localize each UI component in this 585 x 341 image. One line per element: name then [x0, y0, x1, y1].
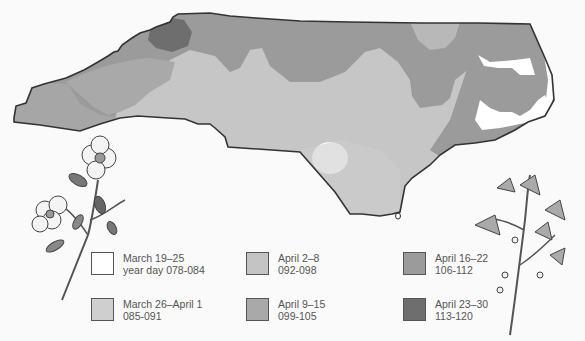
legend-swatch: [91, 298, 114, 321]
legend-swatch: [403, 252, 426, 275]
north-carolina-bloom-map: [0, 0, 585, 341]
legend-days: 113-120: [435, 310, 488, 322]
legend-swatch: [403, 298, 426, 321]
legend-dates: April 2–8: [278, 252, 319, 264]
legend-item-apr16-22: April 16–22 106-112: [403, 252, 488, 276]
legend-item-apr23-30: April 23–30 113-120: [403, 298, 488, 322]
legend-swatch: [91, 252, 114, 275]
legend-dates: March 19–25: [123, 252, 205, 264]
legend-swatch: [246, 298, 269, 321]
legend-dates: April 23–30: [435, 298, 488, 310]
legend-days: 106-112: [435, 264, 488, 276]
legend-item-apr9-15: April 9–15 099-105: [246, 298, 325, 322]
legend-item-mar19-25: March 19–25 year day 078-084: [91, 252, 205, 276]
legend-item-mar26-apr1: March 26–April 1 085-091: [91, 298, 202, 322]
legend-days: year day 078-084: [123, 264, 205, 276]
legend-days: 085-091: [123, 310, 202, 322]
redbud-illustration: [475, 175, 565, 335]
legend-days: 092-098: [278, 264, 319, 276]
legend-swatch: [246, 252, 269, 275]
legend-days: 099-105: [278, 310, 325, 322]
legend-dates: March 26–April 1: [123, 298, 202, 310]
legend-item-apr2-8: April 2–8 092-098: [246, 252, 319, 276]
legend-dates: April 9–15: [278, 298, 325, 310]
legend-dates: April 16–22: [435, 252, 488, 264]
